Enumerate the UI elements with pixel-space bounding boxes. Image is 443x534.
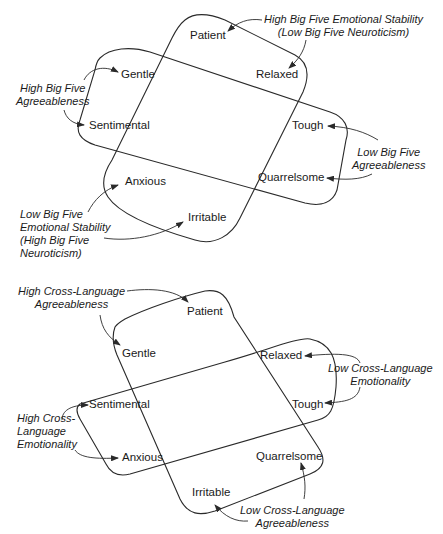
arrow-low-agree-to-tough bbox=[328, 126, 378, 140]
factor-low-agreeableness: Low Big Five Agreeableness bbox=[352, 146, 425, 172]
arrow-high-agree-to-patient bbox=[127, 290, 188, 302]
trait-patient: Patient bbox=[190, 29, 226, 42]
arrow-high-agree-to-gentle bbox=[100, 315, 120, 345]
factor-low-emotional-stability: Low Big Five Emotional Stability (High B… bbox=[20, 208, 111, 260]
trait-sentimental: Sentimental bbox=[89, 398, 150, 411]
trait-anxious: Anxious bbox=[125, 175, 166, 188]
factor-high-cross-emotionality: High Cross- Language Emotionality bbox=[17, 412, 77, 451]
trait-quarrelsome: Quarrelsome bbox=[256, 450, 322, 463]
trait-irritable: Irritable bbox=[188, 211, 226, 224]
trait-quarrelsome: Quarrelsome bbox=[258, 171, 324, 184]
trait-tough: Tough bbox=[292, 398, 323, 411]
arrow-high-agree-to-gentle bbox=[84, 68, 118, 80]
cross-language-diagram: Patient Gentle Relaxed Sentimental Tough… bbox=[0, 267, 443, 534]
trait-relaxed: Relaxed bbox=[256, 68, 298, 81]
factor-low-cross-agreeableness: Low Cross-Language Agreeableness bbox=[240, 504, 345, 530]
trait-gentle: Gentle bbox=[122, 347, 156, 360]
arrow-low-stability-to-irritable bbox=[104, 222, 183, 239]
arrow-high-stability-to-relaxed bbox=[289, 40, 306, 68]
trait-sentimental: Sentimental bbox=[89, 119, 150, 132]
trait-tough: Tough bbox=[292, 119, 323, 132]
trait-gentle: Gentle bbox=[121, 68, 155, 81]
arrow-high-emot-to-anxious bbox=[75, 450, 118, 458]
factor-high-emotional-stability: High Big Five Emotional Stability (Low B… bbox=[264, 13, 423, 39]
arrow-high-stability-to-patient bbox=[228, 19, 262, 31]
arrow-low-agree-to-quarrelsome bbox=[301, 463, 305, 499]
factor-low-cross-emotionality: Low Cross-Language Emotionality bbox=[328, 362, 433, 388]
big-five-diagram: Patient Relaxed Gentle Sentimental Tough… bbox=[0, 0, 443, 267]
trait-irritable: Irritable bbox=[192, 486, 230, 499]
trait-patient: Patient bbox=[187, 305, 223, 318]
factor-high-cross-agreeableness: High Cross-Language Agreeableness bbox=[18, 285, 125, 311]
arrow-low-emot-to-tough bbox=[325, 387, 360, 403]
trait-relaxed: Relaxed bbox=[260, 349, 302, 362]
trait-anxious: Anxious bbox=[122, 451, 163, 464]
arrow-low-agree-to-quarrelsome bbox=[327, 174, 372, 179]
factor-high-agreeableness: High Big Five Agreeableness bbox=[16, 82, 89, 108]
